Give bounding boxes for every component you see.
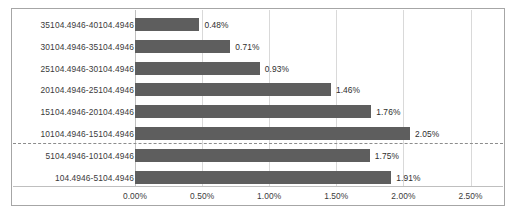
bar-row: 30104.4946-35104.49460.71%	[12, 36, 504, 58]
category-label: 10104.4946-15104.4946	[16, 123, 134, 145]
bar[interactable]	[135, 18, 199, 31]
bar-track: 0.71%	[135, 36, 504, 58]
x-tick-label: 2.50%	[458, 191, 482, 201]
bar-value-label: 0.93%	[265, 58, 289, 80]
bar[interactable]	[135, 40, 230, 53]
bar-value-label: 1.46%	[336, 79, 360, 101]
x-tick-label: 1.00%	[257, 191, 281, 201]
bar-value-label: 0.48%	[204, 14, 228, 36]
bar[interactable]	[135, 62, 260, 75]
bar-row: 20104.4946-25104.49461.46%	[12, 79, 504, 101]
x-tick-label: 0.50%	[190, 191, 214, 201]
bar-track: 1.75%	[135, 145, 504, 167]
bar-value-label: 1.75%	[375, 145, 399, 167]
bar-track: 0.48%	[135, 14, 504, 36]
category-label: 35104.4946-40104.4946	[16, 14, 134, 36]
plot-area: 35104.4946-40104.49460.48%30104.4946-351…	[12, 9, 504, 205]
bar[interactable]	[135, 127, 410, 140]
category-label: 15104.4946-20104.4946	[16, 101, 134, 123]
category-label: 30104.4946-35104.4946	[16, 36, 134, 58]
group-separator-line	[13, 143, 503, 144]
bar-row: 25104.4946-30104.49460.93%	[12, 58, 504, 80]
category-label: 5104.4946-10104.4946	[16, 145, 134, 167]
bar-value-label: 2.05%	[415, 123, 439, 145]
bar-value-label: 1.76%	[376, 101, 400, 123]
category-label: 25104.4946-30104.4946	[16, 58, 134, 80]
bar-row: 15104.4946-20104.49461.76%	[12, 101, 504, 123]
category-label: 20104.4946-25104.4946	[16, 79, 134, 101]
plot-frame: 35104.4946-40104.49460.48%30104.4946-351…	[11, 8, 505, 206]
bar-value-label: 0.71%	[235, 36, 259, 58]
bar[interactable]	[135, 171, 391, 184]
bar-track: 2.05%	[135, 123, 504, 145]
x-axis-line	[13, 186, 503, 187]
bar-row: 5104.4946-10104.49461.75%	[12, 145, 504, 167]
x-tick-label: 1.50%	[324, 191, 348, 201]
bar[interactable]	[135, 105, 371, 118]
bar-track: 0.93%	[135, 58, 504, 80]
bar-row: 10104.4946-15104.49462.05%	[12, 123, 504, 145]
bar-row: 35104.4946-40104.49460.48%	[12, 14, 504, 36]
bar-track: 1.46%	[135, 79, 504, 101]
x-tick-label: 2.00%	[391, 191, 415, 201]
bar-chart: 35104.4946-40104.49460.48%30104.4946-351…	[0, 0, 518, 217]
bar-track: 1.76%	[135, 101, 504, 123]
x-tick-label: 0.00%	[123, 191, 147, 201]
bar[interactable]	[135, 83, 331, 96]
bar[interactable]	[135, 149, 370, 162]
